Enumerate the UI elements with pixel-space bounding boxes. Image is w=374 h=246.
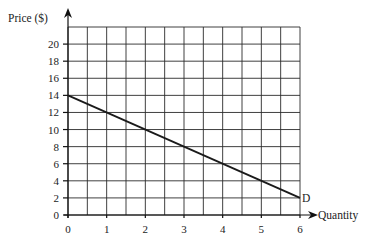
x-tick-label: 2 — [143, 223, 149, 235]
y-tick-label: 12 — [48, 106, 59, 118]
x-tick-label: 1 — [104, 223, 110, 235]
y-tick-label: 2 — [54, 192, 60, 204]
x-tick-label: 4 — [220, 223, 226, 235]
y-tick-label: 18 — [48, 55, 60, 67]
y-tick-label: 8 — [54, 141, 60, 153]
x-tick-label: 0 — [65, 223, 71, 235]
y-tick-label: 20 — [48, 38, 60, 50]
grid — [68, 27, 300, 215]
x-tick-label: 6 — [297, 223, 303, 235]
y-tick-label: 16 — [48, 72, 60, 84]
x-tick-label: 3 — [181, 223, 187, 235]
axes — [64, 8, 318, 219]
x-tick-label: 5 — [259, 223, 265, 235]
demand-chart: 024681012141618200123456 Price ($) Quant… — [0, 0, 374, 246]
tick-labels: 024681012141618200123456 — [48, 38, 303, 235]
x-axis-label: Quantity — [318, 209, 358, 222]
y-axis-label: Price ($) — [8, 12, 48, 25]
y-tick-label: 4 — [54, 175, 60, 187]
y-tick-label: 0 — [54, 209, 60, 221]
y-tick-label: 6 — [54, 158, 60, 170]
y-tick-label: 10 — [48, 124, 60, 136]
demand-curve-label: D — [302, 192, 310, 204]
y-tick-label: 14 — [48, 89, 60, 101]
